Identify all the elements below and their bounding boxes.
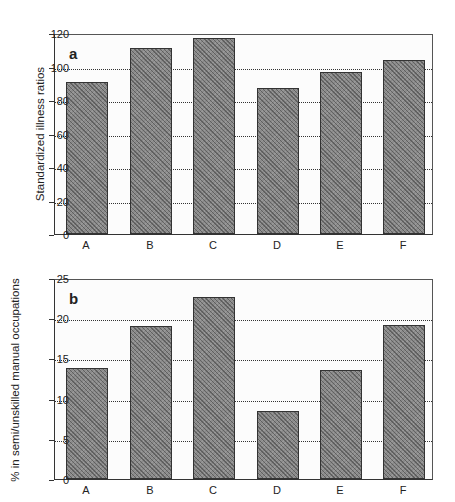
y-tick-label: 20 — [57, 313, 69, 325]
bar-e — [320, 370, 362, 479]
plot-area-b: b — [54, 279, 433, 480]
x-tick-label: F — [382, 484, 424, 496]
y-tick-mark — [49, 279, 54, 280]
y-tick-label: 25 — [57, 273, 69, 285]
y-tick-mark — [49, 440, 54, 441]
x-tick-label: A — [65, 484, 107, 496]
y-tick-mark — [49, 359, 54, 360]
gridline — [55, 401, 432, 402]
y-tick-label: 10 — [57, 394, 69, 406]
gridline — [55, 441, 432, 442]
y-tick-mark — [49, 480, 54, 481]
bar-c — [193, 297, 235, 479]
bar-d — [257, 411, 299, 479]
bar-f — [383, 325, 425, 479]
y-axis-title-b: % in semi/unskilled manual occupations — [9, 255, 21, 502]
x-tick-label: E — [319, 484, 361, 496]
x-tick-label: C — [192, 484, 234, 496]
chart-b: % in semi/unskilled manual occupations b… — [0, 0, 455, 502]
gridline — [55, 360, 432, 361]
y-tick-mark — [49, 400, 54, 401]
bar-a — [66, 368, 108, 479]
y-tick-label: 15 — [57, 353, 69, 365]
gridline — [55, 320, 432, 321]
x-tick-label: D — [256, 484, 298, 496]
x-tick-label: B — [129, 484, 171, 496]
y-tick-mark — [49, 319, 54, 320]
panel-letter: b — [69, 290, 78, 307]
bar-b — [130, 326, 172, 479]
y-tick-label: 5 — [63, 434, 69, 446]
